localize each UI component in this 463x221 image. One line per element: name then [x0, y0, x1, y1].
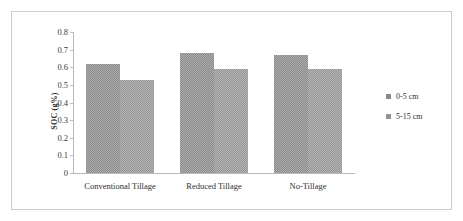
legend-label: 5-15 cm — [396, 112, 422, 121]
x-axis-label: Conventional Tillage — [84, 181, 156, 191]
legend-item: 0-5 cm — [386, 92, 422, 101]
x-axis-label: Reduced Tillage — [186, 181, 241, 191]
bar — [180, 53, 214, 173]
y-tick-label: 0.3 — [57, 116, 73, 125]
y-tick-label: 0.1 — [57, 151, 73, 160]
y-tick-label: 0.4 — [57, 98, 73, 107]
bar — [86, 64, 120, 173]
bar-group — [167, 32, 261, 173]
legend-swatch-icon — [386, 114, 391, 119]
bar — [308, 69, 342, 173]
bar — [274, 55, 308, 173]
y-tick-label: 0.6 — [57, 63, 73, 72]
legend-swatch-icon — [386, 94, 391, 99]
figure: SOC (g%) 0.80.70.60.50.40.30.20.10 Conve… — [0, 0, 463, 221]
bar-group — [73, 32, 167, 173]
y-tick-label: 0.5 — [57, 81, 73, 90]
bar — [120, 80, 154, 173]
x-axis-label: No-Tillage — [290, 181, 327, 191]
x-axis-line — [73, 173, 355, 174]
legend: 0-5 cm5-15 cm — [386, 92, 422, 132]
y-tick-label: 0.7 — [57, 45, 73, 54]
bar — [214, 69, 248, 173]
y-tick-label: 0 — [64, 169, 73, 178]
bar-groups — [73, 32, 355, 173]
legend-label: 0-5 cm — [396, 92, 418, 101]
y-tick-label: 0.2 — [57, 134, 73, 143]
legend-item: 5-15 cm — [386, 112, 422, 121]
bar-group — [261, 32, 355, 173]
y-tick-label: 0.8 — [57, 28, 73, 37]
